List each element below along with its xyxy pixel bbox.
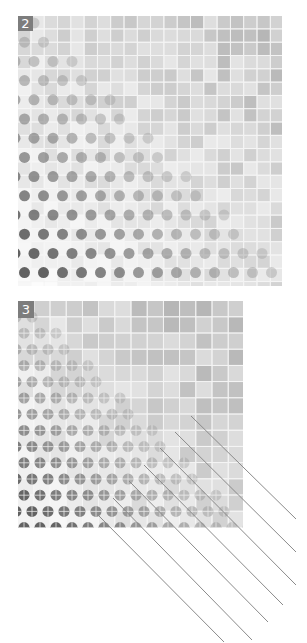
panel-3-halftone-grid: 3: [18, 301, 243, 528]
leader-line: [97, 514, 224, 642]
panel-label: 2: [18, 16, 33, 31]
panel-2-halftone-grid: 2: [18, 16, 282, 286]
tile-grid: [18, 301, 243, 528]
tile-grid: [18, 16, 282, 286]
panel-label: 3: [18, 301, 34, 318]
